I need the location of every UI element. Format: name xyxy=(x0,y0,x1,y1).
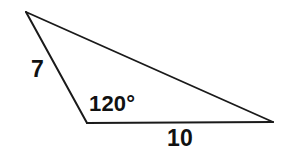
triangle-edge-bottom xyxy=(87,122,273,123)
figure-background xyxy=(0,0,282,164)
side-length-label-left: 7 xyxy=(31,58,44,81)
side-length-label-bottom: 10 xyxy=(167,127,193,150)
angle-measure-label: 120° xyxy=(89,93,135,115)
triangle-figure: 7 120° 10 xyxy=(0,0,282,164)
triangle-diagram xyxy=(0,0,282,164)
